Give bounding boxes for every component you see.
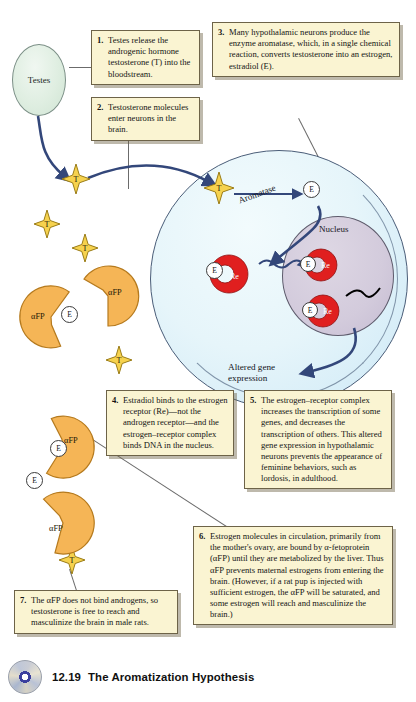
testosterone-molecule: T bbox=[72, 234, 98, 262]
altered-gene-expression-label: Altered gene expression bbox=[228, 362, 275, 383]
arrow-testosterone-into-cell bbox=[88, 166, 209, 182]
afp-protein-free: αFP bbox=[32, 492, 94, 554]
step-number: 4. bbox=[112, 395, 123, 406]
step-text: Testes release the androgenic hormone te… bbox=[108, 35, 194, 80]
cd-disc-icon bbox=[8, 660, 42, 694]
caption-text: 12.19The Aromatization Hypothesis bbox=[52, 671, 254, 683]
step-text: Testosterone molecules enter neurons in … bbox=[108, 102, 194, 136]
caption-title: The Aromatization Hypothesis bbox=[88, 671, 254, 683]
callout-step-2: 2. Testosterone molecules enter neurons … bbox=[91, 97, 200, 141]
testes-label: Testes bbox=[28, 75, 50, 85]
estradiol-free-molecule: E bbox=[26, 472, 43, 489]
callout-step-1: 1. Testes release the androgenic hormone… bbox=[91, 30, 200, 85]
diagram-artboard: Nucleus Testes A bbox=[6, 6, 410, 642]
testosterone-molecule-in-cell: T bbox=[204, 172, 234, 204]
estradiol-bound-to-afp: E bbox=[61, 306, 78, 323]
altered-gene-line-1: Altered gene bbox=[228, 362, 275, 373]
step-number: 1. bbox=[97, 35, 108, 46]
caption-number: 12.19 bbox=[52, 671, 81, 683]
callout-step-7: 7. The αFP does not bind androgens, so t… bbox=[14, 590, 178, 634]
step-number: 7. bbox=[20, 595, 31, 606]
callout-step-6: 6. Estrogen molecules in circulation, pr… bbox=[193, 526, 393, 625]
callout-step-3: 3. Many hypothalamic neurons produce the… bbox=[212, 22, 400, 77]
step-number: 5. bbox=[250, 395, 261, 406]
step-text: Estradiol binds to the estrogen receptor… bbox=[123, 395, 228, 451]
callout-step-5: 5. The estrogen–receptor complex increas… bbox=[244, 390, 392, 489]
estradiol-bound-to-receptor: E bbox=[206, 262, 223, 279]
testosterone-molecule: T bbox=[34, 210, 60, 238]
step-number: 3. bbox=[218, 27, 229, 38]
estradiol-bound-to-receptor-nucleus: E bbox=[302, 302, 318, 318]
estradiol-bound-to-afp: E bbox=[50, 440, 67, 457]
figure-root: Nucleus Testes A bbox=[0, 0, 416, 702]
leader-line-box1 bbox=[69, 67, 91, 68]
testosterone-molecule: T bbox=[106, 346, 132, 374]
altered-gene-line-2: expression bbox=[228, 373, 275, 384]
step-text: The αFP does not bind androgens, so test… bbox=[31, 595, 172, 629]
afp-protein-free: αFP bbox=[78, 266, 138, 326]
step-number: 6. bbox=[199, 531, 210, 542]
figure-caption: 12.19The Aromatization Hypothesis bbox=[8, 655, 408, 699]
nucleus-label: Nucleus bbox=[319, 224, 349, 234]
step-text: Many hypothalamic neurons produce the en… bbox=[229, 27, 394, 72]
step-text: The estrogen–receptor complex increases … bbox=[261, 395, 386, 484]
estradiol-molecule: E bbox=[303, 181, 320, 198]
step-text: Estrogen molecules in circulation, prima… bbox=[210, 531, 387, 620]
step-number: 2. bbox=[97, 102, 108, 113]
estradiol-bound-to-receptor-nucleus: E bbox=[300, 256, 316, 272]
callout-step-4: 4. Estradiol binds to the estrogen recep… bbox=[106, 390, 234, 456]
testosterone-molecule: T bbox=[62, 164, 90, 194]
arrow-testes-to-testosterone bbox=[38, 116, 64, 176]
testes-shape: Testes bbox=[12, 44, 66, 116]
